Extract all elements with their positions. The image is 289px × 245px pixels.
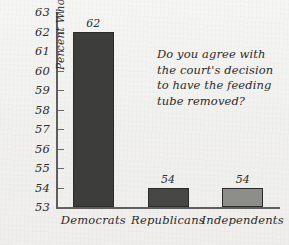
y-axis-tick: [58, 207, 64, 208]
y-axis-tick-label: 54: [35, 180, 50, 194]
bar-value-label: 54: [236, 173, 250, 186]
annotation-line-3: to have the feeding: [157, 78, 282, 94]
y-axis-tick-label: 57: [35, 122, 50, 136]
y-axis-tick-label: 62: [35, 24, 50, 38]
x-axis-category-label: Republicans: [131, 213, 205, 227]
y-axis-tick-label: 56: [35, 141, 50, 155]
y-axis-tick: [58, 110, 64, 111]
y-axis-tick: [58, 71, 64, 72]
y-axis-tick: [58, 90, 64, 91]
bar-value-label: 54: [161, 173, 175, 186]
bar[interactable]: 54Independents: [222, 188, 263, 208]
y-axis-tick: [58, 51, 64, 52]
y-axis-tick: [58, 12, 64, 13]
x-axis-line: [56, 207, 280, 209]
y-axis-tick-label: 61: [35, 44, 50, 58]
annotation-line-2: the court's decision: [157, 63, 282, 79]
y-axis-tick-label: 53: [35, 200, 50, 214]
bar[interactable]: 54Republicans: [148, 188, 189, 208]
y-axis-tick-label: 63: [35, 5, 50, 19]
x-axis-category-label: Democrats: [61, 213, 126, 227]
plot-area: Percent Who Agree 5354555657585960616263…: [56, 12, 280, 209]
annotation-line-1: Do you agree with: [157, 47, 282, 63]
annotation-line-4: tube removed?: [157, 94, 282, 110]
y-axis-tick-label: 59: [35, 83, 50, 97]
bar[interactable]: 62Democrats: [73, 32, 114, 208]
y-axis-tick: [58, 188, 64, 189]
y-axis-tick: [58, 149, 64, 150]
bar-chart: Percent Who Agree 5354555657585960616263…: [0, 0, 289, 245]
question-annotation: Do you agree with the court's decision t…: [157, 47, 282, 109]
y-axis-tick: [58, 168, 64, 169]
y-axis-tick-label: 58: [35, 102, 50, 116]
y-axis-tick-label: 60: [35, 63, 50, 77]
y-axis-tick: [58, 32, 64, 33]
y-axis-title: Percent Who Agree: [54, 0, 66, 70]
y-axis-tick-label: 55: [35, 161, 50, 175]
x-axis-category-label: Independents: [202, 213, 284, 227]
bar-value-label: 62: [86, 17, 100, 30]
y-axis-tick: [58, 129, 64, 130]
